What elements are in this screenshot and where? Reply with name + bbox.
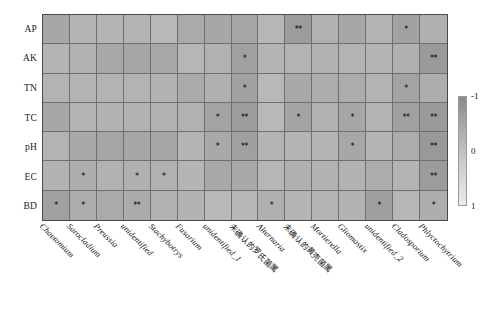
heatmap-cell xyxy=(97,44,124,73)
heatmap-cell xyxy=(393,191,420,220)
heatmap-cell xyxy=(151,191,178,220)
heatmap-cell: ** xyxy=(124,191,151,220)
heatmap-cell xyxy=(258,132,285,161)
heatmap-cell: * xyxy=(339,132,366,161)
significance-marker: ** xyxy=(430,55,437,63)
colorbar-gradient xyxy=(458,96,467,206)
row-label-axis: APAKTNTCpHECBD xyxy=(8,14,40,221)
heatmap-cell xyxy=(124,15,151,44)
significance-marker: * xyxy=(216,114,220,122)
heatmap-cell xyxy=(366,132,393,161)
heatmap-cell xyxy=(312,161,339,190)
heatmap-cell: ** xyxy=(232,103,259,132)
heatmap-cell xyxy=(178,103,205,132)
heatmap-cell xyxy=(258,103,285,132)
heatmap-cell: * xyxy=(205,132,232,161)
heatmap-cell: ** xyxy=(420,44,447,73)
heatmap-cell xyxy=(393,132,420,161)
significance-marker: * xyxy=(404,26,408,34)
heatmap-cell xyxy=(97,161,124,190)
heatmap-cell xyxy=(393,161,420,190)
heatmap-cell xyxy=(70,132,97,161)
heatmap-cell xyxy=(178,161,205,190)
row-label-tn: TN xyxy=(8,73,40,103)
heatmap-cell xyxy=(70,103,97,132)
heatmap-cell xyxy=(312,15,339,44)
heatmap-cell xyxy=(232,191,259,220)
heatmap-cell xyxy=(43,161,70,190)
row-label-ec: EC xyxy=(8,162,40,192)
heatmap-cell xyxy=(312,191,339,220)
heatmap-cell: ** xyxy=(420,103,447,132)
colorbar-legend: -101 xyxy=(458,96,502,206)
correlation-heatmap-figure: APAKTNTCpHECBD *************************… xyxy=(0,0,504,320)
heatmap-cell xyxy=(312,74,339,103)
heatmap-cell: ** xyxy=(420,161,447,190)
significance-marker: * xyxy=(270,202,274,210)
heatmap-cell: ** xyxy=(232,132,259,161)
heatmap-cell: * xyxy=(205,103,232,132)
significance-marker: * xyxy=(243,55,247,63)
heatmap-cell xyxy=(124,44,151,73)
significance-marker: ** xyxy=(430,114,437,122)
heatmap-cell xyxy=(178,15,205,44)
heatmap-cell xyxy=(393,44,420,73)
heatmap-cell xyxy=(285,44,312,73)
heatmap-cell xyxy=(366,103,393,132)
heatmap-cell xyxy=(312,132,339,161)
heatmap-cell: * xyxy=(339,103,366,132)
heatmap-cell xyxy=(151,132,178,161)
heatmap-cell xyxy=(151,74,178,103)
row-label-bd: BD xyxy=(8,191,40,221)
heatmap-cell xyxy=(97,103,124,132)
heatmap-cell xyxy=(285,74,312,103)
significance-marker: * xyxy=(377,202,381,210)
heatmap-cell xyxy=(205,161,232,190)
heatmap-cell: * xyxy=(366,191,393,220)
heatmap-cell xyxy=(151,103,178,132)
heatmap-cell xyxy=(258,161,285,190)
heatmap-cell xyxy=(420,74,447,103)
significance-marker: * xyxy=(216,143,220,151)
row-label-ak: AK xyxy=(8,44,40,74)
heatmap-cell xyxy=(43,132,70,161)
heatmap-cell xyxy=(151,44,178,73)
heatmap-cell xyxy=(178,132,205,161)
heatmap-cell: * xyxy=(70,161,97,190)
heatmap-cell: * xyxy=(258,191,285,220)
row-label-ap: AP xyxy=(8,14,40,44)
heatmap-cell xyxy=(366,44,393,73)
heatmap-cell: * xyxy=(124,161,151,190)
significance-marker: * xyxy=(350,114,354,122)
heatmap-cell xyxy=(97,74,124,103)
heatmap-cell: * xyxy=(393,15,420,44)
heatmap-plot-area: *********************************** xyxy=(42,14,448,221)
colorbar-tick-2: 1 xyxy=(471,201,476,211)
heatmap-cell xyxy=(178,191,205,220)
heatmap-cell: * xyxy=(43,191,70,220)
colorbar-tick-1: 0 xyxy=(471,146,476,156)
significance-marker: ** xyxy=(241,114,248,122)
heatmap-cell xyxy=(205,74,232,103)
significance-marker: * xyxy=(162,173,166,181)
heatmap-cell xyxy=(43,15,70,44)
heatmap-cell xyxy=(205,191,232,220)
heatmap-cell xyxy=(339,74,366,103)
heatmap-cell xyxy=(124,132,151,161)
significance-marker: * xyxy=(432,202,436,210)
heatmap-cell: ** xyxy=(420,132,447,161)
significance-marker: ** xyxy=(403,114,410,122)
heatmap-cell xyxy=(258,44,285,73)
heatmap-cell xyxy=(70,44,97,73)
heatmap-cell xyxy=(312,103,339,132)
heatmap-cell xyxy=(285,161,312,190)
heatmap-cell xyxy=(339,15,366,44)
heatmap-cell xyxy=(366,74,393,103)
significance-marker: * xyxy=(81,173,85,181)
heatmap-cell xyxy=(43,103,70,132)
significance-marker: ** xyxy=(295,26,302,34)
heatmap-cell xyxy=(366,15,393,44)
significance-marker: ** xyxy=(241,143,248,151)
heatmap-cell xyxy=(339,44,366,73)
heatmap-cell xyxy=(43,74,70,103)
